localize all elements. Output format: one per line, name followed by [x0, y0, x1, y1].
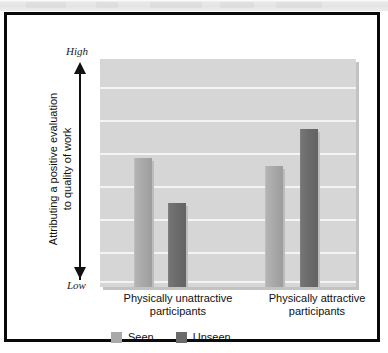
- legend-label-unseen: Unseen: [193, 331, 231, 343]
- y-axis-title-line-2: to quality of work: [60, 64, 74, 274]
- scan-artifact-band: [0, 0, 388, 11]
- axis-stem: [79, 72, 81, 280]
- gridline: [100, 87, 356, 89]
- bar-unseen-unattractive[interactable]: [168, 203, 186, 287]
- figure-frame: High Low Attributing a positive evaluati…: [4, 12, 380, 342]
- category-label-line-1: Physically attractive: [252, 292, 382, 305]
- legend: Seen Unseen: [111, 331, 231, 343]
- bar-seen-unattractive[interactable]: [134, 158, 152, 287]
- category-label-line-2: participants: [252, 305, 382, 318]
- y-axis-title-line-1: Attributing a positive evaluation: [46, 64, 60, 274]
- axis-low-label: Low: [67, 279, 86, 291]
- bar-unseen-attractive[interactable]: [300, 129, 318, 287]
- axis-high-label: High: [66, 45, 88, 57]
- axis-arrow-down-icon: [74, 267, 86, 279]
- category-label-line-1: Physically unattractive: [103, 292, 253, 305]
- category-label-line-2: participants: [103, 305, 253, 318]
- legend-item-seen[interactable]: Seen: [111, 331, 154, 343]
- figure-container: High Low Attributing a positive evaluati…: [0, 0, 388, 353]
- legend-item-unseen[interactable]: Unseen: [176, 331, 231, 343]
- y-axis-title: Attributing a positive evaluation to qua…: [46, 64, 74, 274]
- legend-swatch-seen-icon: [111, 332, 122, 343]
- category-label-attractive: Physically attractive participants: [252, 292, 382, 318]
- legend-swatch-unseen-icon: [176, 332, 187, 343]
- plot-area: [100, 59, 356, 287]
- legend-label-seen: Seen: [128, 331, 154, 343]
- category-label-unattractive: Physically unattractive participants: [103, 292, 253, 318]
- gridline: [100, 120, 356, 122]
- bar-seen-attractive[interactable]: [265, 166, 283, 287]
